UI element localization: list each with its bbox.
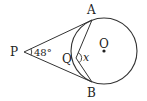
label-o: O bbox=[99, 37, 109, 51]
label-b: B bbox=[87, 86, 96, 100]
label-q: Q bbox=[62, 52, 72, 66]
angle-arc-p bbox=[31, 49, 32, 55]
label-p: P bbox=[10, 45, 18, 59]
angle-arc-q bbox=[78, 53, 82, 63]
angle-p-value: 48° bbox=[34, 47, 52, 58]
label-a: A bbox=[86, 3, 96, 17]
geometry-diagram: P A B Q O 48° x bbox=[0, 0, 147, 101]
angle-q-variable: x bbox=[83, 51, 90, 64]
